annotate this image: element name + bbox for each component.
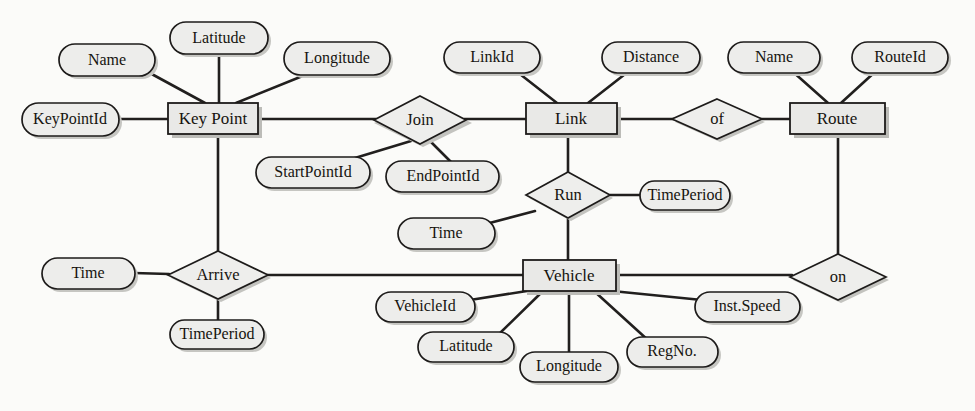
attribute-vehicle-longitude[interactable]: Longitude (520, 352, 621, 385)
arrive-label: Arrive (196, 265, 239, 284)
attribute-key-point-latitude[interactable]: Latitude (170, 22, 271, 57)
veh-longitude-label: Longitude (536, 357, 602, 375)
of-label: of (710, 109, 724, 128)
vehicle-label: Vehicle (544, 266, 595, 285)
relationship-of[interactable]: of (672, 99, 765, 142)
relationship-arrive[interactable]: Arrive (168, 251, 271, 302)
kp-longitude-label: Longitude (304, 49, 370, 67)
veh-latitude-label: Latitude (439, 337, 492, 354)
veh-vehicleid-label: VehicleId (394, 297, 455, 314)
join-label: Join (406, 110, 434, 129)
join-startpointid-label: StartPointId (274, 163, 351, 180)
entities-layer: Key Point Link Route Vehicle (168, 103, 889, 295)
attribute-link-linkid[interactable]: LinkId (444, 42, 543, 76)
attribute-key-point-longitude[interactable]: Longitude (284, 42, 393, 78)
on-label: on (830, 267, 847, 286)
er-diagram-svg: Join of Run Arrive on (0, 0, 975, 411)
link-label: Link (555, 109, 588, 128)
attribute-link-distance[interactable]: Distance (602, 42, 703, 76)
kp-latitude-label: Latitude (192, 29, 245, 46)
entity-key-point[interactable]: Key Point (168, 103, 262, 138)
edge-vehicle-to-instspeed (612, 291, 702, 300)
attribute-arrive-time[interactable]: Time (42, 258, 138, 292)
edge-time-to-arrive (134, 273, 169, 274)
route-routeid-label: RouteId (874, 48, 926, 65)
veh-instspeed-label: Inst.Speed (713, 297, 780, 315)
relationship-join[interactable]: Join (374, 96, 472, 147)
attribute-run-timeperiod[interactable]: TimePeriod (640, 181, 733, 213)
attribute-vehicle-instspeed[interactable]: Inst.Speed (695, 292, 803, 325)
veh-regno-label: RegNo. (647, 342, 696, 360)
edge-vehicle-to-vehicleid (470, 291, 527, 300)
attributes-layer: Name Latitude Longitude KeyPointId S (22, 22, 951, 385)
join-endpointid-label: EndPointId (407, 167, 480, 184)
entity-route[interactable]: Route (790, 103, 889, 138)
arrive-timeperiod-label: TimePeriod (180, 325, 255, 342)
attribute-vehicle-vehicleid[interactable]: VehicleId (376, 292, 478, 325)
run-time-label: Time (429, 224, 462, 241)
link-linkid-label: LinkId (470, 48, 514, 65)
edge-vehicle-to-regno (594, 291, 649, 341)
edge-join-to-endpointid (429, 140, 451, 162)
edge-name-to-key-point (148, 72, 205, 103)
edge-vehicle-to-latitude (498, 291, 543, 335)
run-timeperiod-label: TimePeriod (648, 186, 723, 203)
attribute-route-name[interactable]: Name (728, 42, 823, 76)
relationship-run[interactable]: Run (526, 172, 613, 221)
kp-keypointid-label: KeyPointId (33, 110, 107, 128)
edge-longitude-to-key-point (236, 73, 310, 103)
relationship-on[interactable]: on (790, 254, 889, 303)
attribute-run-time[interactable]: Time (398, 218, 498, 252)
er-diagram-canvas: Join of Run Arrive on (0, 0, 975, 411)
route-label: Route (817, 109, 858, 128)
entity-link[interactable]: Link (526, 103, 621, 138)
attribute-vehicle-latitude[interactable]: Latitude (418, 332, 517, 365)
attribute-arrive-timeperiod[interactable]: TimePeriod (170, 320, 267, 352)
attribute-key-point-name[interactable]: Name (59, 44, 158, 79)
kp-name-label: Name (88, 51, 126, 68)
arrive-time-label: Time (71, 264, 104, 281)
entity-vehicle[interactable]: Vehicle (523, 260, 620, 295)
key-point-label: Key Point (179, 109, 248, 128)
attribute-route-routeid[interactable]: RouteId (852, 42, 951, 76)
attribute-key-point-keypointid[interactable]: KeyPointId (22, 103, 122, 139)
link-distance-label: Distance (623, 48, 679, 65)
attribute-join-endpointid[interactable]: EndPointId (386, 161, 502, 195)
attribute-join-startpointid[interactable]: StartPointId (256, 157, 373, 191)
route-name-label: Name (755, 48, 793, 65)
run-label: Run (554, 185, 582, 204)
attribute-vehicle-regno[interactable]: RegNo. (627, 337, 721, 370)
